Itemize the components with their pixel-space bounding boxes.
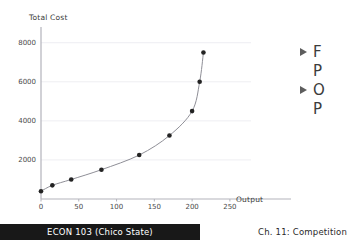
x-tick-label: 0 bbox=[29, 203, 53, 211]
y-tick-label: 8000 bbox=[6, 39, 36, 47]
top-fragment-1: — bbox=[200, 0, 207, 3]
top-fragment-3: — bbox=[282, 0, 289, 3]
top-fragment-2: —— bbox=[238, 0, 252, 3]
total-cost-chart: Total Cost Output 2000400060008000050100… bbox=[0, 14, 300, 214]
x-tick-label: 100 bbox=[105, 203, 129, 211]
bullet-item-0: F bbox=[300, 44, 351, 61]
bullet-item-2: O bbox=[300, 82, 351, 99]
footer-chapter-label: Ch. 11: Competition bbox=[258, 224, 347, 240]
x-tick-label: 50 bbox=[67, 203, 91, 211]
x-tick-label: 150 bbox=[142, 203, 166, 211]
bullet-text: P bbox=[313, 63, 322, 80]
bullet-text: O bbox=[313, 82, 325, 99]
triangle-right-icon bbox=[300, 86, 307, 94]
x-tick-label: 200 bbox=[180, 203, 204, 211]
y-tick-label: 6000 bbox=[6, 78, 36, 86]
chart-plot-area bbox=[0, 14, 300, 214]
slide: — — —— — — — Total Cost Output 200040006… bbox=[0, 0, 351, 240]
top-fragment-0: — bbox=[158, 0, 165, 3]
footer: ECON 103 (Chico State) Ch. 11: Competiti… bbox=[0, 224, 351, 240]
bullet-text: F bbox=[313, 44, 322, 61]
triangle-right-icon bbox=[300, 48, 307, 56]
y-tick-label: 4000 bbox=[6, 117, 36, 125]
bullet-list: F P O P bbox=[300, 44, 351, 144]
top-fragment-4: — — bbox=[320, 0, 336, 3]
y-axis-title: Total Cost bbox=[29, 13, 68, 22]
clipped-top-row: — — —— — — — bbox=[0, 0, 351, 6]
x-tick-label: 250 bbox=[218, 203, 242, 211]
footer-course-label: ECON 103 (Chico State) bbox=[0, 224, 200, 240]
bullet-item-1: P bbox=[300, 63, 351, 80]
bullet-item-3: P bbox=[300, 101, 351, 118]
bullet-text: P bbox=[313, 101, 322, 118]
y-tick-label: 2000 bbox=[6, 156, 36, 164]
